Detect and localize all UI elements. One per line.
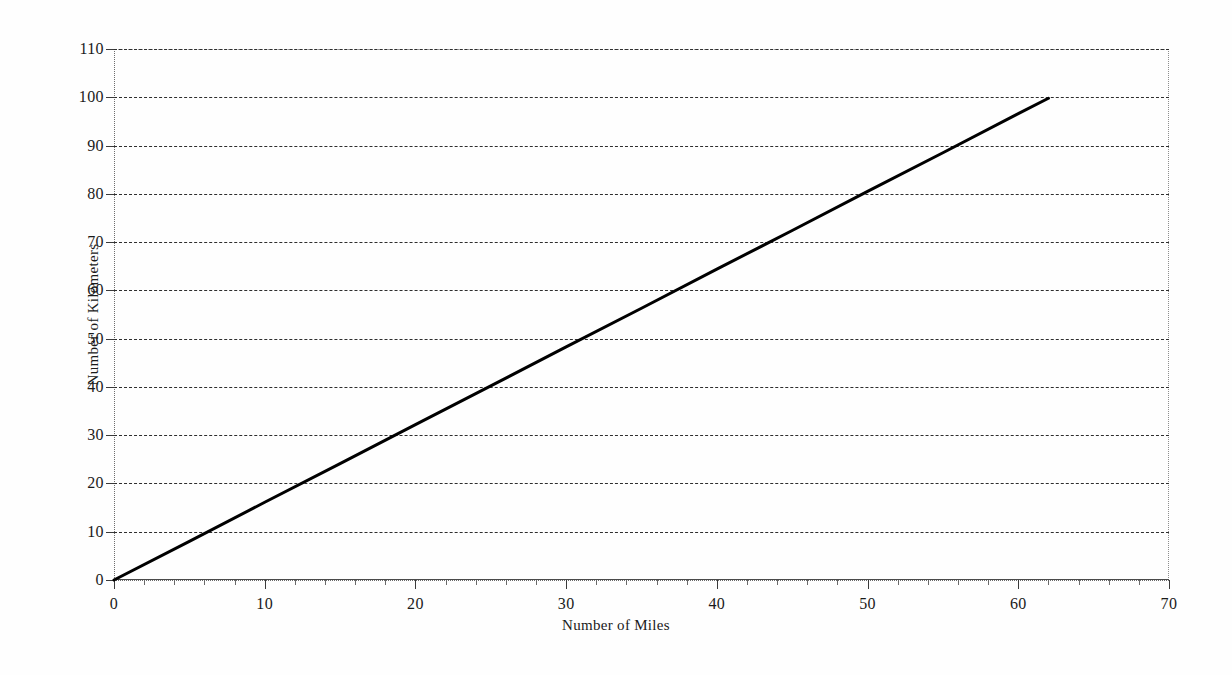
x-tick-label-0: 0 bbox=[84, 596, 144, 612]
x-minor-tick-34 bbox=[626, 580, 627, 585]
x-tick-40 bbox=[717, 580, 718, 589]
x-tick-10 bbox=[265, 580, 266, 589]
x-tick-70 bbox=[1169, 580, 1170, 589]
x-minor-tick-8 bbox=[235, 580, 236, 585]
x-minor-tick-22 bbox=[446, 580, 447, 585]
y-tick-40 bbox=[106, 387, 114, 388]
x-minor-tick-28 bbox=[536, 580, 537, 585]
series-line-layer bbox=[114, 49, 1169, 580]
y-tick-90 bbox=[106, 146, 114, 147]
x-tick-label-50: 50 bbox=[838, 596, 898, 612]
y-tick-80 bbox=[106, 194, 114, 195]
y-tick-50 bbox=[106, 339, 114, 340]
x-tick-30 bbox=[566, 580, 567, 589]
x-minor-tick-38 bbox=[687, 580, 688, 585]
x-minor-tick-52 bbox=[898, 580, 899, 585]
x-minor-tick-4 bbox=[174, 580, 175, 585]
series-line-miles-to-kilometers bbox=[114, 98, 1048, 580]
x-tick-label-30: 30 bbox=[536, 596, 596, 612]
x-tick-50 bbox=[868, 580, 869, 589]
x-tick-label-70: 70 bbox=[1139, 596, 1199, 612]
x-minor-tick-12 bbox=[295, 580, 296, 585]
x-tick-60 bbox=[1018, 580, 1019, 589]
x-minor-tick-56 bbox=[958, 580, 959, 585]
y-tick-60 bbox=[106, 290, 114, 291]
x-minor-tick-44 bbox=[777, 580, 778, 585]
x-minor-tick-6 bbox=[204, 580, 205, 585]
x-tick-label-60: 60 bbox=[988, 596, 1048, 612]
plot-area: 0102030405060708090100110 01020304050607… bbox=[114, 49, 1169, 580]
x-minor-tick-14 bbox=[325, 580, 326, 585]
y-tick-110 bbox=[106, 49, 114, 50]
x-minor-tick-64 bbox=[1079, 580, 1080, 585]
x-minor-tick-18 bbox=[385, 580, 386, 585]
y-tick-30 bbox=[106, 435, 114, 436]
gridline-y-0 bbox=[114, 580, 1169, 581]
x-minor-tick-48 bbox=[837, 580, 838, 585]
x-minor-tick-46 bbox=[807, 580, 808, 585]
x-minor-tick-32 bbox=[596, 580, 597, 585]
y-tick-100 bbox=[106, 97, 114, 98]
x-minor-tick-58 bbox=[988, 580, 989, 585]
x-minor-tick-42 bbox=[747, 580, 748, 585]
x-minor-tick-68 bbox=[1139, 580, 1140, 585]
x-tick-label-20: 20 bbox=[385, 596, 445, 612]
x-minor-tick-62 bbox=[1048, 580, 1049, 585]
y-tick-20 bbox=[106, 483, 114, 484]
y-tick-10 bbox=[106, 532, 114, 533]
x-minor-tick-16 bbox=[355, 580, 356, 585]
x-tick-label-10: 10 bbox=[235, 596, 295, 612]
chart-figure: 0102030405060708090100110 01020304050607… bbox=[0, 0, 1232, 675]
x-minor-tick-54 bbox=[928, 580, 929, 585]
x-tick-label-40: 40 bbox=[687, 596, 747, 612]
x-minor-tick-2 bbox=[144, 580, 145, 585]
y-axis-title: Number of Kilometers bbox=[85, 49, 107, 580]
y-tick-70 bbox=[106, 242, 114, 243]
x-minor-tick-26 bbox=[506, 580, 507, 585]
x-minor-tick-66 bbox=[1109, 580, 1110, 585]
x-axis-title: Number of Miles bbox=[0, 617, 1232, 634]
x-minor-tick-36 bbox=[657, 580, 658, 585]
x-minor-tick-24 bbox=[476, 580, 477, 585]
x-tick-20 bbox=[415, 580, 416, 589]
